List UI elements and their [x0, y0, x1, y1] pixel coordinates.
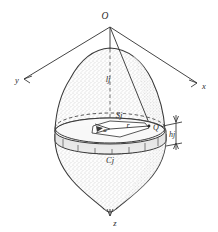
figure-canvas: O y x z lj Sj r a Q hj Cj [0, 0, 218, 232]
label-height: hj [169, 130, 176, 139]
axis-x-arrow [189, 80, 197, 87]
label-base-curve: Cj [106, 155, 115, 165]
diagram-svg: O y x z lj Sj r a Q hj Cj [0, 0, 218, 232]
label-generatrix: lj [106, 74, 111, 84]
axis-y-arrow [24, 76, 32, 83]
label-axis-y: y [14, 75, 19, 85]
label-axis-z: z [112, 218, 117, 228]
label-point-q: Q [153, 123, 159, 132]
label-axis-x: x [201, 81, 206, 91]
height-extension-bottom [166, 143, 182, 146]
label-angle: a [103, 126, 107, 134]
label-origin: O [102, 11, 109, 21]
point-q-dot [148, 125, 151, 128]
label-zone: Sj [116, 110, 123, 120]
height-extension-top [163, 122, 182, 126]
